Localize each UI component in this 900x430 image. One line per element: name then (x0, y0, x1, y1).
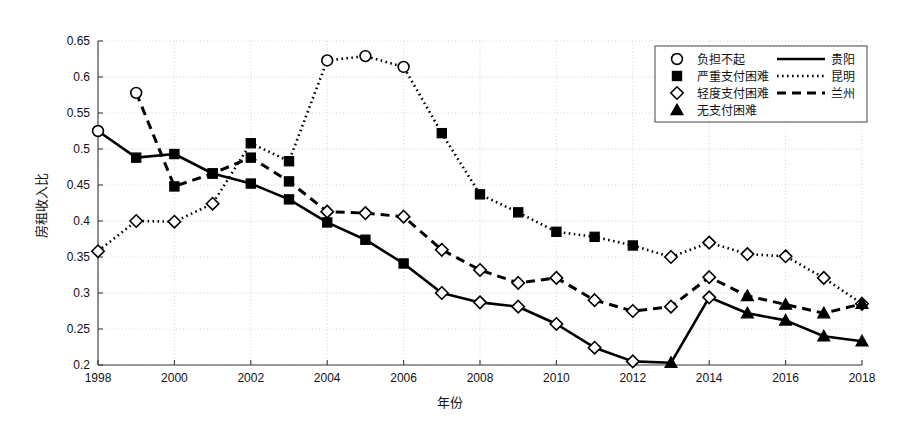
chart-legend: 负担不起严重支付困难轻度支付困难无支付困难贵阳昆明兰州 (655, 46, 867, 122)
y-tick-label: 0.5 (73, 142, 90, 156)
marker-square (399, 259, 408, 268)
marker-circle (322, 55, 333, 66)
x-tick-label: 2002 (237, 371, 264, 385)
y-tick-label: 0.6 (73, 70, 90, 84)
marker-diamond (665, 251, 677, 263)
x-tick-label: 2008 (467, 371, 494, 385)
marker-square (284, 195, 293, 204)
marker-square (170, 182, 179, 191)
marker-square (208, 169, 217, 178)
marker-square (246, 139, 255, 148)
marker-square (514, 208, 523, 217)
marker-diamond (550, 318, 562, 330)
marker-square (323, 218, 332, 227)
marker-diamond (627, 355, 639, 367)
y-tick-label: 0.65 (67, 34, 91, 48)
legend-marker-label: 无支付困难 (697, 104, 757, 118)
marker-diamond (474, 264, 486, 276)
rent-income-ratio-line-chart: 0.20.250.30.350.40.450.50.550.60.6519982… (0, 0, 900, 430)
marker-square (246, 179, 255, 188)
marker-square (672, 71, 681, 80)
marker-diamond (588, 342, 600, 354)
series-贵阳 (93, 126, 868, 368)
marker-square (475, 190, 484, 199)
marker-circle (131, 87, 142, 98)
y-tick-label: 0.25 (67, 322, 91, 336)
x-tick-label: 2010 (543, 371, 570, 385)
y-tick-label: 0.2 (73, 358, 90, 372)
marker-square (132, 153, 141, 162)
marker-circle (93, 126, 104, 137)
y-tick-label: 0.4 (73, 214, 90, 228)
x-tick-label: 2012 (619, 371, 646, 385)
marker-square (170, 149, 179, 158)
y-axis-label: 房租收入比 (31, 146, 50, 266)
marker-diamond (703, 236, 715, 248)
marker-diamond (130, 215, 142, 227)
marker-circle (398, 62, 409, 73)
legend-marker-label: 轻度支付困难 (697, 86, 769, 101)
marker-square (284, 177, 293, 186)
legend-marker-label: 负担不起 (697, 53, 745, 67)
marker-diamond (474, 296, 486, 308)
marker-diamond (550, 272, 562, 284)
legend-series-label: 昆明 (831, 70, 855, 84)
marker-diamond (588, 294, 600, 306)
marker-triangle (741, 290, 753, 301)
marker-diamond (627, 305, 639, 317)
marker-square (437, 129, 446, 138)
x-axis-label: 年份 (0, 392, 900, 411)
y-tick-label: 0.45 (67, 178, 91, 192)
marker-square (246, 153, 255, 162)
marker-diamond (206, 198, 218, 210)
marker-diamond (818, 272, 830, 284)
marker-square (361, 235, 370, 244)
marker-diamond (168, 216, 180, 228)
legend-series-label: 兰州 (831, 87, 855, 101)
x-tick-label: 2004 (314, 371, 341, 385)
x-tick-label: 2000 (161, 371, 188, 385)
marker-diamond (741, 248, 753, 260)
legend-series-label: 贵阳 (831, 53, 855, 67)
x-tick-label: 2014 (696, 371, 723, 385)
chart-figure: 0.20.250.30.350.40.450.50.550.60.6519982… (0, 0, 900, 430)
marker-square (628, 241, 637, 250)
marker-circle (360, 51, 371, 62)
legend-marker-label: 严重支付困难 (697, 70, 769, 84)
x-tick-label: 2018 (849, 371, 876, 385)
marker-diamond (359, 207, 371, 219)
x-tick-label: 2006 (390, 371, 417, 385)
x-tick-label: 2016 (772, 371, 799, 385)
marker-square (590, 232, 599, 241)
marker-square (552, 227, 561, 236)
y-tick-label: 0.55 (67, 106, 91, 120)
marker-diamond (665, 300, 677, 312)
x-tick-label: 1998 (85, 371, 112, 385)
series-line (136, 93, 862, 313)
y-tick-label: 0.3 (73, 286, 90, 300)
marker-diamond (779, 250, 791, 262)
marker-diamond (512, 277, 524, 289)
y-tick-label: 0.35 (67, 250, 91, 264)
marker-square (284, 157, 293, 166)
marker-diamond (512, 300, 524, 312)
marker-circle (672, 54, 683, 65)
